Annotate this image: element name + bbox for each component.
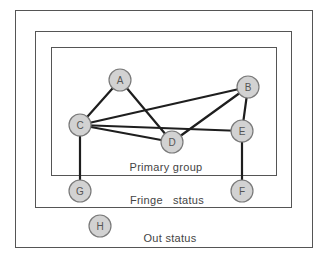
node-a: A [109,69,131,91]
node-label: D [168,137,175,148]
node-h: H [89,215,111,237]
sociogram-diagram: ABCDEFGH Primary group Fringe status Out… [0,0,326,259]
node-label: H [96,221,103,232]
fringe-status-label: Fringe status [130,194,204,206]
node-g: G [69,180,91,202]
node-label: E [239,126,246,137]
node-label: B [245,82,252,93]
node-label: G [76,186,84,197]
node-c: C [69,114,91,136]
node-d: D [161,131,183,153]
zone-labels: Primary group Fringe status Out status [130,161,205,244]
node-f: F [231,180,253,202]
node-e: E [231,120,253,142]
primary-group-label: Primary group [130,161,203,173]
out-status-label: Out status [143,232,196,244]
node-label: F [239,186,245,197]
node-label: A [117,75,124,86]
nodes: ABCDEFGH [69,69,259,237]
node-label: C [76,120,83,131]
node-b: B [237,76,259,98]
